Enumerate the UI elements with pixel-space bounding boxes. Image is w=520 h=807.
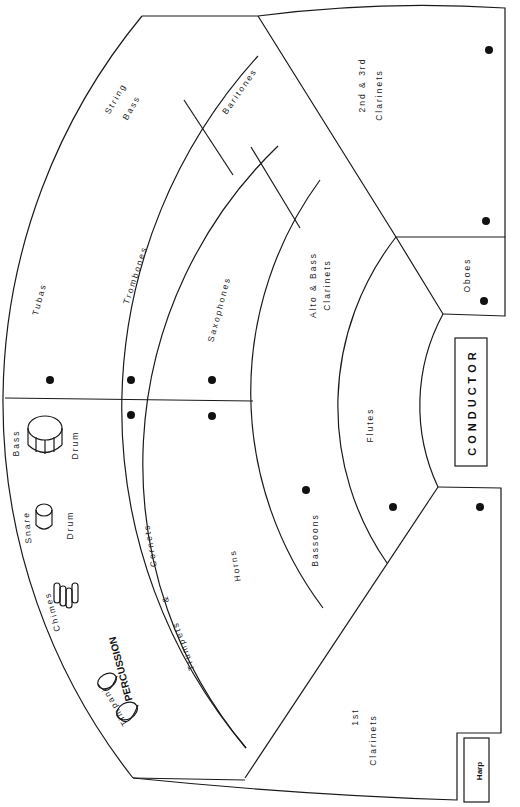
arc-2 — [122, 56, 258, 748]
seat-dot — [127, 411, 135, 419]
label-string-bass-2: Bass — [120, 93, 142, 121]
label-1st-clarinets-2: Clarinets — [368, 714, 378, 766]
seating-diagram: Harp CONDUCTOR Tubas String Bass Trombon… — [0, 0, 520, 807]
label-clar23-2: Clarinets — [374, 69, 384, 121]
seat-dot — [480, 297, 488, 305]
seating-chart-svg: Harp CONDUCTOR Tubas String Bass Trombon… — [0, 0, 520, 807]
horizontal-divider — [5, 398, 253, 401]
bass-drum-icon — [28, 416, 62, 454]
label-bass-drum: Drum — [70, 431, 80, 460]
seat-dot — [302, 486, 310, 494]
label-ampersand: & — [159, 594, 171, 604]
label-alto-bass-1: Alto & Bass — [308, 252, 318, 318]
divider-2nd-3rd-clarinets — [258, 16, 443, 314]
label-alto-bass-2: Clarinets — [322, 259, 332, 311]
label-oboes: Oboes — [462, 257, 472, 292]
seat-dot — [208, 376, 216, 384]
label-horns: Horns — [227, 549, 243, 583]
label-snare-drum: Drum — [65, 511, 75, 540]
label-chimes: Chimes — [42, 591, 62, 633]
label-flutes: Flutes — [365, 407, 375, 442]
seat-dot — [476, 503, 484, 511]
arc-5 — [338, 237, 396, 563]
seat-dot — [127, 376, 135, 384]
conductor-label: CONDUCTOR — [466, 348, 478, 455]
label-snare: Snare — [21, 511, 34, 544]
arc-3 — [143, 146, 278, 748]
divider-1st-clarinets — [245, 487, 438, 778]
oboe-box — [396, 237, 505, 316]
chimes-icon — [54, 583, 78, 608]
seat-dot — [485, 46, 493, 54]
label-bassoons: Bassoons — [310, 513, 320, 566]
label-trumpets: Trumpets — [170, 620, 197, 672]
seat-dot — [482, 217, 490, 225]
label-bass: Bass — [11, 430, 21, 457]
label-baritones: Baritones — [220, 66, 259, 116]
label-saxophones: Saxophones — [206, 275, 233, 343]
label-1st-clarinets-1: 1st — [350, 708, 360, 725]
label-tubas: Tubas — [30, 282, 48, 317]
arc-6 — [420, 314, 443, 487]
seat-dot — [208, 412, 216, 420]
divider-alto-bass — [251, 147, 300, 228]
harp-label: Harp — [475, 762, 484, 780]
seat-dot — [46, 376, 54, 384]
label-trombones: Trombones — [121, 245, 149, 306]
snare-drum-icon — [36, 504, 52, 529]
seat-dot — [389, 503, 397, 511]
label-clar23-1: 2nd & 3rd — [357, 58, 367, 113]
